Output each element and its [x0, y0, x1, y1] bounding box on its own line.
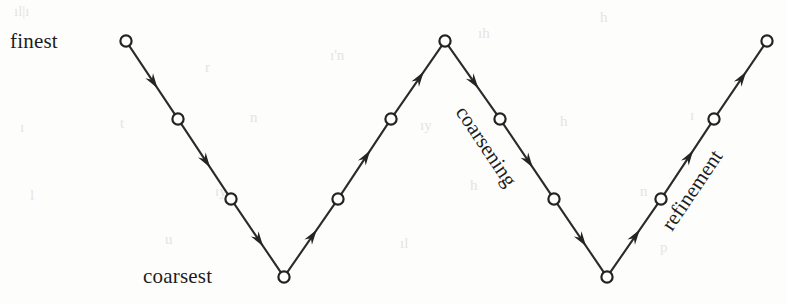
- grid-level-node: [278, 271, 289, 282]
- grid-level-node: [601, 271, 612, 282]
- grid-level-node: [439, 35, 450, 46]
- grid-level-node: [385, 113, 396, 124]
- grid-level-node: [494, 113, 505, 124]
- scan-artifact: ıy: [420, 117, 432, 133]
- grid-level-node: [655, 193, 666, 204]
- scan-artifact: ıl: [400, 235, 408, 251]
- scan-artifact: h: [560, 113, 568, 129]
- grid-level-node: [120, 35, 131, 46]
- scan-artifact: n: [250, 109, 258, 125]
- scan-artifact: p: [660, 239, 668, 255]
- scan-artifact: ı'n: [330, 47, 345, 63]
- scan-artifact: ıl|ı: [14, 3, 30, 19]
- scan-artifact: h: [470, 177, 478, 193]
- scan-artifact: l: [30, 187, 34, 203]
- scan-artifact: n: [640, 183, 648, 199]
- multigrid-cycle-diagram: ıl|ırı'nıhhıtnıyhılıyhnuılp finest coars…: [0, 0, 787, 304]
- scan-artifact: ı: [20, 119, 24, 135]
- label-coarsest: coarsest: [143, 264, 212, 288]
- label-finest: finest: [10, 29, 58, 53]
- scan-artifact: h: [600, 9, 608, 25]
- grid-level-node: [225, 193, 236, 204]
- diagram-background: [0, 0, 787, 304]
- diagram-canvas: ıl|ırı'nıhhıtnıyhılıyhnuılp finest coars…: [0, 0, 787, 304]
- grid-level-node: [708, 113, 719, 124]
- grid-level-node: [172, 113, 183, 124]
- grid-level-node: [761, 35, 772, 46]
- scan-artifact: ıh: [478, 25, 490, 41]
- scan-artifact: ı: [690, 107, 694, 123]
- scan-artifact: u: [165, 231, 173, 247]
- scan-artifact: r: [205, 59, 210, 75]
- grid-level-node: [332, 193, 343, 204]
- grid-level-node: [548, 193, 559, 204]
